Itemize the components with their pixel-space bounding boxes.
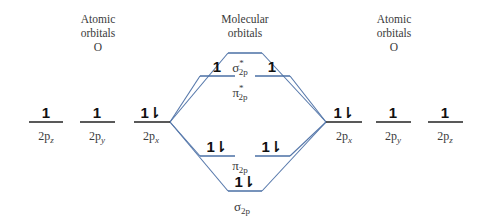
electron-arrows: 1⇂ <box>334 104 355 121</box>
mo-diagram: 1 2pz 1 2py 1⇂ 2px 1⇂ 2px 1 2py 1 2pz σ*… <box>0 0 484 223</box>
orbital-label: 2py <box>89 129 105 145</box>
orbital-label: 2px <box>336 129 352 145</box>
orbital-label: 2px <box>143 129 159 145</box>
mo-pi-star-2p: 1 1 π*2p <box>200 58 290 102</box>
mo-pi-2p: 1⇂ 1⇂ π2p <box>200 138 290 175</box>
orbital-label: 2pz <box>38 129 54 145</box>
mo-sigma-star-2p: σ*2p <box>228 53 262 77</box>
orbital-label: 2pz <box>437 129 453 145</box>
electron-arrows: 1 <box>389 104 397 121</box>
electron-arrows: 1 <box>93 104 101 121</box>
right-ao-2pz: 1 2pz <box>428 104 463 145</box>
electron-arrows: 1 <box>42 104 50 121</box>
mo-label: σ2p <box>234 199 251 216</box>
electron-arrows: 1⇂ <box>207 138 228 155</box>
correlation-lines <box>170 53 326 191</box>
right-ao-2px: 1⇂ 2px <box>326 104 362 145</box>
electron-arrows: 1 <box>268 58 276 75</box>
electron-arrows: 1 <box>213 58 221 75</box>
left-ao-2pz: 1 2pz <box>29 104 63 145</box>
orbital-label: 2py <box>385 129 401 145</box>
mo-sigma-2p: 1⇂ σ2p <box>228 173 262 216</box>
left-ao-2py: 1 2py <box>80 104 115 145</box>
electron-arrows: 1 <box>441 104 449 121</box>
mo-label: π*2p <box>232 83 248 102</box>
right-ao-2py: 1 2py <box>376 104 411 145</box>
electron-arrows: 1⇂ <box>235 173 256 190</box>
left-ao-2px: 1⇂ 2px <box>134 104 170 145</box>
electron-arrows: 1⇂ <box>262 138 283 155</box>
mo-label: σ*2p <box>232 58 248 77</box>
electron-arrows: 1⇂ <box>141 104 162 121</box>
